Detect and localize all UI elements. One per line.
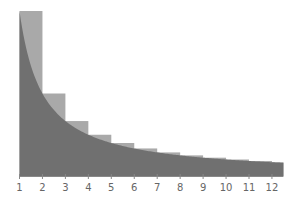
x-tick-label: 7 [154,182,160,193]
x-tick-label: 6 [131,182,137,193]
x-tick-label: 8 [177,182,183,193]
x-tick-label: 2 [39,182,45,193]
harmonic-chart: 123456789101112 [0,0,302,201]
x-tick-label: 5 [108,182,114,193]
x-tick-label: 10 [220,182,233,193]
x-tick-label: 1 [16,182,22,193]
x-tick-label: 3 [62,182,68,193]
x-tick-label: 9 [200,182,206,193]
x-tick-label: 12 [266,182,279,193]
x-tick-label: 4 [85,182,91,193]
x-tick-label: 11 [243,182,256,193]
x-axis-labels: 123456789101112 [16,182,278,193]
